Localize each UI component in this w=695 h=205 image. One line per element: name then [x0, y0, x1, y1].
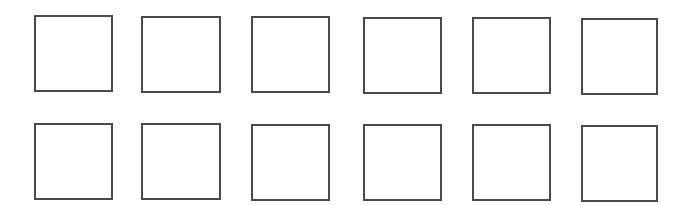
- empty-square-r1-c6: [581, 18, 658, 95]
- empty-square-r2-c3: [251, 124, 330, 201]
- square-grid: [0, 0, 695, 205]
- empty-square-r2-c4: [363, 124, 442, 201]
- empty-square-r1-c1: [34, 15, 113, 92]
- empty-square-r2-c5: [472, 124, 551, 201]
- empty-square-r1-c3: [251, 16, 330, 93]
- empty-square-r1-c5: [472, 17, 551, 94]
- empty-square-r2-c2: [141, 123, 221, 200]
- empty-square-r1-c4: [363, 17, 442, 94]
- empty-square-r2-c6: [581, 125, 658, 202]
- empty-square-r2-c1: [34, 123, 113, 200]
- empty-square-r1-c2: [141, 16, 221, 93]
